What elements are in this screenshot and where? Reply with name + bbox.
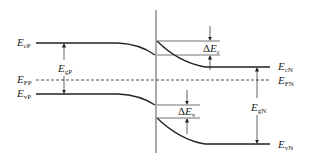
label-egp: EgP xyxy=(57,62,72,76)
label-ecn: EcN xyxy=(277,60,293,74)
label-efp: EFP xyxy=(16,73,32,87)
label-delta-ev: ΔEv xyxy=(178,105,196,119)
label-delta-ec: ΔEc xyxy=(203,42,220,56)
label-egn: EgN xyxy=(250,101,266,115)
conduction-band-p xyxy=(36,43,155,55)
label-evp: EvP xyxy=(16,87,31,101)
label-evn: EvN xyxy=(277,138,293,152)
label-efn: EFN xyxy=(277,74,294,88)
label-ecp: EcP xyxy=(16,36,31,50)
valence-band-p xyxy=(36,94,155,105)
band-diagram: EcP EFP EvP EcN EFN EvN EgP EgN ΔEc ΔEv xyxy=(0,0,309,161)
valence-band-n xyxy=(157,118,270,144)
